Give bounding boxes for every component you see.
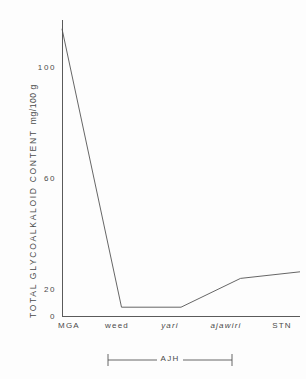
x-tick-stn: STN — [272, 321, 292, 330]
glycoalkaloid-line-chart: TOTAL GLYCOALKALOID CONTENT mg/100 g 100… — [0, 0, 306, 379]
x-tick-weed: weed — [105, 321, 129, 330]
x-tick-ajawiri: ajawiri — [210, 321, 241, 330]
x-tick-yari: yari — [161, 321, 179, 330]
data-series-layer — [0, 0, 306, 379]
x-tick-mga: MGA — [58, 321, 80, 330]
ajh-bracket-label: AJH — [160, 354, 179, 363]
glycoalkaloid-series-line — [62, 29, 300, 307]
